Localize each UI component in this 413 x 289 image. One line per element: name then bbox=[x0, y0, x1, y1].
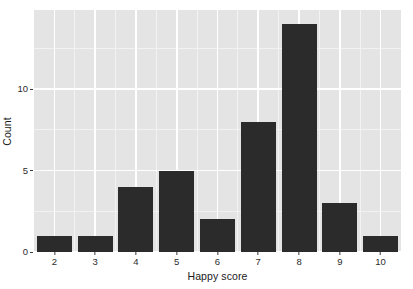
x-axis-tick: 7 bbox=[256, 252, 261, 267]
y-axis-tick-mark bbox=[30, 252, 33, 253]
x-axis-tick-label: 2 bbox=[52, 256, 57, 267]
gridline-minor-vertical bbox=[360, 10, 361, 252]
bar bbox=[282, 24, 317, 252]
y-axis-tick-label: 10 bbox=[17, 83, 28, 95]
bar bbox=[241, 122, 276, 252]
bar bbox=[200, 219, 235, 252]
gridline-major-vertical bbox=[217, 10, 219, 252]
x-axis-tick-label: 6 bbox=[215, 256, 220, 267]
bar bbox=[159, 171, 194, 252]
y-axis-ticks: 0510 bbox=[0, 0, 34, 289]
y-axis-tick-label: 0 bbox=[23, 246, 28, 258]
x-axis-tick-label: 9 bbox=[337, 256, 342, 267]
x-axis-tick-mark bbox=[176, 252, 177, 255]
y-axis-tick-label: 5 bbox=[23, 165, 28, 177]
gridline-major-vertical bbox=[380, 10, 382, 252]
y-axis-tick-mark bbox=[30, 89, 33, 90]
chart-container: Count 0510 2345678910 Happy score bbox=[0, 0, 413, 289]
y-axis-tick: 0 bbox=[23, 246, 34, 258]
x-axis-tick: 5 bbox=[174, 252, 179, 267]
gridline-minor-vertical bbox=[237, 10, 238, 252]
x-axis-tick-label: 5 bbox=[174, 256, 179, 267]
x-axis-tick-mark bbox=[217, 252, 218, 255]
gridline-minor-vertical bbox=[319, 10, 320, 252]
bar bbox=[118, 187, 153, 252]
gridline-minor-vertical bbox=[197, 10, 198, 252]
x-axis-tick-label: 4 bbox=[133, 256, 138, 267]
x-axis-title: Happy score bbox=[34, 270, 401, 282]
gridline-major-vertical bbox=[54, 10, 56, 252]
x-axis-tick-mark bbox=[258, 252, 259, 255]
plot-panel bbox=[34, 10, 401, 252]
y-axis-tick-mark bbox=[30, 170, 33, 171]
x-axis-tick: 8 bbox=[296, 252, 301, 267]
x-axis-tick-label: 3 bbox=[93, 256, 98, 267]
bar bbox=[363, 236, 398, 252]
x-axis-tick-mark bbox=[95, 252, 96, 255]
bar bbox=[37, 236, 72, 252]
y-axis-tick: 10 bbox=[17, 83, 34, 95]
x-axis-tick-mark bbox=[380, 252, 381, 255]
gridline-minor-vertical bbox=[115, 10, 116, 252]
x-axis-tick-label: 10 bbox=[375, 256, 386, 267]
x-axis-tick-mark bbox=[339, 252, 340, 255]
gridline-major-vertical bbox=[94, 10, 96, 252]
gridline-minor-vertical bbox=[156, 10, 157, 252]
bar bbox=[322, 203, 357, 252]
gridline-minor-vertical bbox=[74, 10, 75, 252]
x-axis-tick: 2 bbox=[52, 252, 57, 267]
y-axis-tick: 5 bbox=[23, 165, 34, 177]
x-axis-tick-mark bbox=[135, 252, 136, 255]
x-axis-tick: 10 bbox=[375, 252, 386, 267]
bar bbox=[78, 236, 113, 252]
x-axis-tick-mark bbox=[299, 252, 300, 255]
x-axis-tick: 6 bbox=[215, 252, 220, 267]
x-axis-tick: 9 bbox=[337, 252, 342, 267]
x-axis-tick: 3 bbox=[93, 252, 98, 267]
x-axis-title-label: Happy score bbox=[187, 270, 247, 282]
x-axis-ticks: 2345678910 bbox=[34, 252, 401, 272]
x-axis-tick-label: 8 bbox=[296, 256, 301, 267]
x-axis-tick: 4 bbox=[133, 252, 138, 267]
x-axis-tick-mark bbox=[54, 252, 55, 255]
gridline-minor-vertical bbox=[278, 10, 279, 252]
x-axis-tick-label: 7 bbox=[256, 256, 261, 267]
